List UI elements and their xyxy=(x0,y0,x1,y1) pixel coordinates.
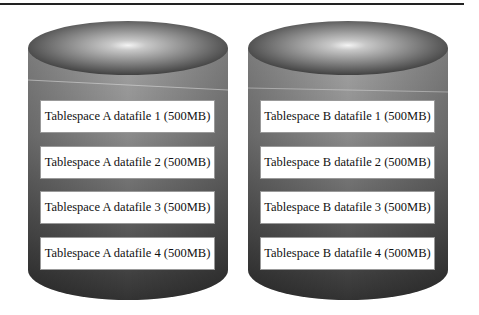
datafile-box: Tablespace A datafile 4 (500MB) xyxy=(40,237,215,270)
datafile-box: Tablespace A datafile 2 (500MB) xyxy=(40,146,215,179)
datafile-box: Tablespace B datafile 1 (500MB) xyxy=(260,100,435,133)
datafile-box: Tablespace B datafile 4 (500MB) xyxy=(260,237,435,270)
datafile-box: Tablespace B datafile 3 (500MB) xyxy=(260,191,435,224)
tablespace-a-cylinder: Tablespace A datafile 1 (500MB) Tablespa… xyxy=(27,20,229,302)
datafile-box: Tablespace A datafile 3 (500MB) xyxy=(40,191,215,224)
tablespace-b-cylinder: Tablespace B datafile 1 (500MB) Tablespa… xyxy=(247,20,449,302)
top-rule xyxy=(0,3,464,5)
datafile-box: Tablespace A datafile 1 (500MB) xyxy=(40,100,215,133)
datafile-box: Tablespace B datafile 2 (500MB) xyxy=(260,146,435,179)
